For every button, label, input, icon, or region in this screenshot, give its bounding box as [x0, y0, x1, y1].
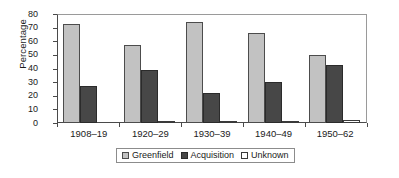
y-tick-label: 60	[20, 37, 38, 46]
y-tick-label: 0	[20, 119, 38, 128]
chart-legend: GreenfieldAcquisitionUnknown	[116, 148, 295, 163]
x-tick-mark	[305, 123, 306, 127]
legend-item: Greenfield	[122, 151, 174, 160]
bar-unknown	[158, 121, 175, 123]
x-tick-mark	[181, 123, 182, 127]
y-tick-label: 70	[20, 23, 38, 32]
legend-label: Acquisition	[191, 151, 235, 160]
x-tick-label: 1920–29	[120, 128, 182, 140]
legend-label: Unknown	[251, 151, 289, 160]
bar-group-bars	[63, 15, 115, 123]
legend-item: Acquisition	[181, 151, 235, 160]
bar-groups	[58, 15, 366, 123]
y-tick-label: 40	[20, 64, 38, 73]
legend-swatch-icon	[181, 152, 188, 159]
bar-greenfield	[63, 24, 80, 123]
bar-group	[120, 15, 182, 123]
bar-group-bars	[186, 15, 238, 123]
legend-swatch-icon	[241, 152, 248, 159]
x-tick-mark	[57, 123, 58, 127]
bar-greenfield	[248, 33, 265, 123]
x-tick-mark	[119, 123, 120, 127]
bar-group-bars	[248, 15, 300, 123]
bar-chart: Percentage 80706050403020100 1908–191920…	[0, 0, 399, 178]
bar-unknown	[282, 121, 299, 123]
y-tick-label: 10	[20, 105, 38, 114]
y-tick-label: 30	[20, 78, 38, 87]
bar-group	[58, 15, 120, 123]
bar-greenfield	[186, 22, 203, 123]
y-tick-label: 80	[20, 10, 38, 19]
legend-item: Unknown	[241, 151, 289, 160]
y-tick-label: 20	[20, 91, 38, 100]
legend-swatch-icon	[122, 152, 129, 159]
bar-acquisition	[326, 65, 343, 123]
bar-unknown	[220, 121, 237, 123]
x-tick-label: 1930–39	[181, 128, 243, 140]
bar-greenfield	[124, 45, 141, 123]
x-tick-mark	[243, 123, 244, 127]
bar-group	[243, 15, 305, 123]
bar-group-bars	[309, 15, 361, 123]
bar-unknown	[343, 120, 360, 123]
bar-acquisition	[141, 70, 158, 123]
x-axis-labels: 1908–191920–291930–391940–491950–62	[58, 128, 366, 140]
legend-label: Greenfield	[132, 151, 174, 160]
y-tick-label: 50	[20, 50, 38, 59]
bar-acquisition	[80, 86, 97, 123]
x-tick-label: 1940–49	[243, 128, 305, 140]
bar-group	[304, 15, 366, 123]
x-tick-mark	[367, 123, 368, 127]
bar-group-bars	[124, 15, 176, 123]
x-tick-label: 1950–62	[304, 128, 366, 140]
bar-group	[181, 15, 243, 123]
bar-acquisition	[203, 93, 220, 123]
bar-greenfield	[309, 55, 326, 123]
bar-acquisition	[265, 82, 282, 123]
x-tick-label: 1908–19	[58, 128, 120, 140]
